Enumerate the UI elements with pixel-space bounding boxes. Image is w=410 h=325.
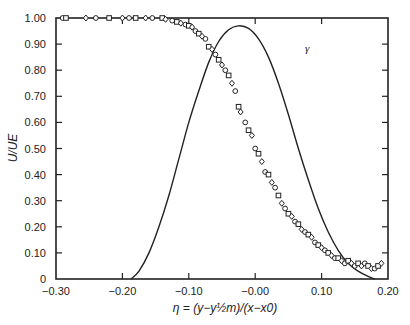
y-tick-label: 0.40 bbox=[25, 169, 46, 181]
y-tick-label: 0.10 bbox=[25, 247, 46, 259]
x-tick-label: −0.00 bbox=[241, 285, 269, 297]
data-point bbox=[203, 36, 208, 41]
data-point bbox=[276, 193, 281, 198]
data-point bbox=[296, 222, 301, 227]
data-point bbox=[229, 80, 234, 86]
data-point bbox=[269, 179, 274, 185]
data-point bbox=[256, 151, 261, 156]
gamma-curve bbox=[131, 26, 375, 279]
y-tick-label: 0.80 bbox=[25, 64, 46, 76]
y-tick-label: 1.00 bbox=[25, 12, 46, 24]
data-point bbox=[120, 15, 125, 21]
x-axis-label: η = (y−y½m)/(x−x0) bbox=[173, 301, 277, 315]
data-point bbox=[216, 57, 221, 62]
y-tick-label: 0.60 bbox=[25, 116, 46, 128]
x-tick-label: 0.10 bbox=[311, 285, 332, 297]
data-point bbox=[246, 128, 251, 133]
data-points bbox=[60, 15, 384, 272]
data-point bbox=[238, 109, 243, 115]
data-point bbox=[249, 132, 254, 138]
data-point bbox=[243, 120, 248, 125]
data-point bbox=[127, 16, 132, 21]
y-tick-label: 0.90 bbox=[25, 38, 46, 50]
plot-axes bbox=[56, 18, 388, 279]
y-axis-label: U/UE bbox=[6, 133, 20, 163]
y-tick-label: 0.30 bbox=[25, 195, 46, 207]
data-point bbox=[213, 52, 218, 57]
data-point bbox=[220, 62, 225, 68]
x-tick-label: −0.20 bbox=[108, 285, 136, 297]
y-tick-label: 0.50 bbox=[25, 143, 46, 155]
y-tick-label: 0.20 bbox=[25, 221, 46, 233]
data-point bbox=[273, 185, 278, 190]
x-tick-label: −0.10 bbox=[175, 285, 203, 297]
data-point bbox=[150, 16, 155, 21]
data-point bbox=[283, 206, 288, 211]
data-point bbox=[253, 146, 258, 151]
data-point bbox=[233, 89, 238, 94]
x-tick-label: −0.30 bbox=[42, 285, 70, 297]
x-tick-label: 0.20 bbox=[377, 285, 398, 297]
data-point bbox=[266, 172, 271, 177]
data-point bbox=[259, 159, 264, 165]
y-tick-label: 0.70 bbox=[25, 90, 46, 102]
data-point bbox=[170, 18, 175, 23]
data-point bbox=[143, 15, 148, 21]
gamma-label: γ bbox=[305, 42, 310, 54]
data-point bbox=[133, 16, 138, 21]
data-point bbox=[64, 16, 69, 21]
y-tick-label: 0 bbox=[40, 273, 46, 285]
data-point bbox=[93, 16, 98, 21]
data-point bbox=[223, 68, 228, 73]
data-point bbox=[236, 104, 241, 109]
data-point bbox=[107, 16, 112, 21]
data-point bbox=[226, 73, 231, 78]
data-point bbox=[83, 15, 88, 21]
data-point bbox=[279, 200, 284, 206]
chart: −0.30−0.20−0.10−0.000.100.2000.100.200.3… bbox=[0, 0, 410, 325]
